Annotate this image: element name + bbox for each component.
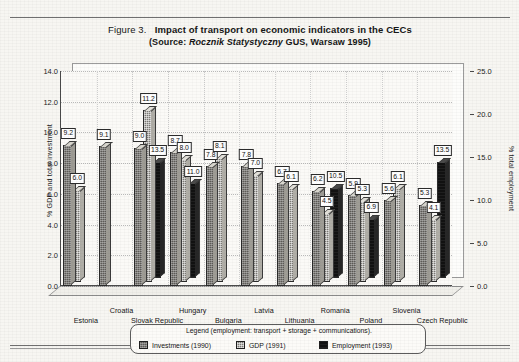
- bar-investments-1990: [63, 145, 72, 286]
- bar-value-label: 13.5: [433, 145, 451, 156]
- chart-legend: Legend (employment: transport + storage …: [130, 324, 426, 354]
- checker-swatch: [236, 341, 245, 349]
- bar-side-face: [151, 107, 156, 281]
- source-publication: Rocznik Statystyczny: [189, 37, 283, 47]
- y-axis-right-ticks: 0.05.010.015.020.025.0: [468, 63, 496, 278]
- bar-side-face: [195, 180, 200, 277]
- bar-side-face: [436, 216, 441, 281]
- x-axis-category-croatia: Croatia: [110, 306, 134, 315]
- chart-floor: [48, 286, 464, 296]
- plot-area: 0.02.04.06.08.010.012.014.0 0.05.010.015…: [36, 63, 484, 308]
- bars-layer: 9.26.09.19.011.213.58.78.011.07.88.17.87…: [60, 71, 452, 286]
- y-axis-left-tick-label: 2.0: [48, 251, 58, 260]
- bar-investments-1990: [206, 166, 215, 286]
- bar-value-label: 11.2: [140, 93, 158, 104]
- y-axis-left-title: % GDP and total investment: [46, 96, 53, 246]
- bar-side-face: [427, 201, 432, 285]
- bar-group: 7.88.1: [203, 71, 239, 286]
- bar-value-label: 9.1: [97, 129, 111, 140]
- figure-title-line: Figure 3. Impact of transport on economi…: [10, 24, 510, 36]
- y-axis-right-tick-mark: [470, 71, 474, 72]
- bar-side-face: [374, 215, 379, 277]
- y-axis-right-title: % total employment: [508, 104, 515, 254]
- x-axis-category-latvia: Latvia: [254, 306, 273, 315]
- bar-value-label: 6.1: [391, 171, 405, 182]
- bar-side-face: [213, 163, 218, 285]
- bar-side-face: [80, 187, 85, 281]
- y-axis-right-tick-mark: [470, 286, 474, 287]
- figure-container: Figure 3. Impact of transport on economi…: [10, 18, 510, 344]
- legend-item-label: Investments (1990): [152, 342, 211, 349]
- bar-side-face: [400, 185, 405, 281]
- legend-item-label: Employment (1993): [332, 342, 392, 349]
- bar-side-face: [106, 143, 111, 285]
- bar-value-label: 5.3: [355, 184, 369, 195]
- y-axis-right-tick-label: 25.0: [477, 67, 492, 76]
- figure-source-line: (Source: Rocznik Statystyczny GUS, Warsa…: [10, 36, 510, 48]
- bar-value-label: 5.6: [382, 183, 396, 194]
- x-axis-category-hungary: Hungary: [179, 306, 207, 315]
- bar-side-face: [329, 210, 334, 281]
- bar-group: 7.87.0: [238, 71, 274, 286]
- bar-group: 5.95.36.9: [345, 71, 381, 286]
- bar-investments-1990: [419, 205, 428, 286]
- y-axis-left-tick-label: 0.0: [48, 282, 58, 291]
- page-title: Impact of transport on economic indicato…: [155, 24, 412, 35]
- bar-investments-1990: [134, 148, 143, 286]
- bar-investments-1990: [277, 183, 286, 286]
- bar-side-face: [71, 142, 76, 285]
- bar-value-label: 9.0: [132, 131, 146, 142]
- bar-side-face: [445, 159, 450, 277]
- bar-side-face: [160, 159, 165, 277]
- bar-side-face: [249, 163, 254, 285]
- bar-value-label: 9.2: [61, 128, 75, 139]
- y-axis-right-tick-label: 15.0: [477, 153, 492, 162]
- source-prefix: (Source:: [149, 37, 189, 47]
- figure-number: Figure 3.: [108, 24, 146, 35]
- bar-group: 5.34.113.5: [416, 71, 452, 286]
- bar-side-face: [391, 197, 396, 285]
- bar-investments-1990: [384, 200, 393, 286]
- bar-value-label: 7.0: [248, 158, 262, 169]
- bar-value-label: 8.1: [213, 141, 227, 152]
- bar-group: 9.1: [96, 71, 132, 286]
- bar-side-face: [258, 171, 263, 281]
- y-axis-right-tick-label: 0.0: [477, 282, 487, 291]
- bar-investments-1990: [99, 146, 108, 286]
- x-axis-category-romania: Romania: [321, 306, 350, 315]
- legend-items: Investments (1990)GDP (1991)Employment (…: [131, 338, 427, 352]
- scanned-page: Figure 3. Impact of transport on economi…: [0, 0, 519, 362]
- y-axis-right-tick-label: 5.0: [477, 239, 487, 248]
- bar-value-label: 6.2: [310, 174, 324, 185]
- bar-value-label: 10.5: [327, 171, 345, 182]
- y-axis-right-tick-mark: [470, 243, 474, 244]
- bar-investments-1990: [348, 195, 357, 286]
- bar-side-face: [284, 180, 289, 285]
- bar-side-face: [222, 154, 227, 281]
- y-axis-right-tick-mark: [470, 114, 474, 115]
- dark-hatch-swatch: [139, 341, 148, 349]
- bar-value-label: 4.5: [319, 196, 333, 207]
- bar-group: 8.78.011.0: [167, 71, 203, 286]
- legend-item-label: GDP (1991): [249, 342, 286, 349]
- y-axis-right-tick-label: 10.0: [477, 196, 492, 205]
- bar-group: 9.011.213.5: [131, 71, 167, 286]
- bar-side-face: [293, 185, 298, 281]
- bar-side-face: [142, 145, 147, 285]
- bar-side-face: [338, 185, 343, 277]
- black-swatch: [319, 341, 328, 349]
- legend-item: GDP (1991): [236, 338, 286, 352]
- x-axis-category-slovenia: Slovenia: [393, 306, 421, 315]
- legend-caption: Legend (employment: transport + storage …: [131, 327, 427, 334]
- figure-title-block: Figure 3. Impact of transport on economi…: [10, 24, 510, 48]
- x-axis-category-estonia: Estonia: [74, 316, 98, 325]
- bar-group: 5.66.1: [381, 71, 417, 286]
- source-suffix: GUS, Warsaw 1995): [283, 37, 371, 47]
- bar-value-label: 13.5: [148, 145, 166, 156]
- bar-value-label: 5.3: [417, 188, 431, 199]
- y-axis-right-tick-label: 20.0: [477, 110, 492, 119]
- legend-item: Investments (1990): [139, 338, 211, 352]
- bar-value-label: 6.0: [70, 173, 84, 184]
- bar-side-face: [177, 149, 182, 285]
- bar-value-label: 11.0: [184, 166, 202, 177]
